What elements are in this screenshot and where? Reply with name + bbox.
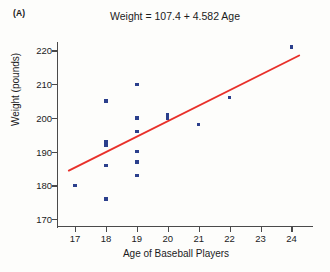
data-point: [104, 99, 107, 102]
x-tick-label: 23: [249, 233, 273, 244]
x-tick: [75, 226, 76, 232]
x-tick: [291, 226, 292, 232]
plot-area: [58, 44, 310, 226]
x-tick-label: 17: [63, 233, 87, 244]
y-tick-label: 210: [18, 79, 52, 90]
y-tick-label: 190: [18, 146, 52, 157]
x-tick: [261, 226, 262, 232]
data-point: [166, 116, 169, 119]
chart-title: Weight = 107.4 + 4.582 Age: [0, 10, 330, 22]
data-point: [228, 96, 231, 99]
data-point: [135, 174, 138, 177]
x-tick-label: 21: [187, 233, 211, 244]
y-tick-label: 180: [18, 180, 52, 191]
data-point: [135, 83, 138, 86]
x-tick: [106, 226, 107, 232]
x-tick-label: 22: [218, 233, 242, 244]
y-axis-title: Weight (pounds): [10, 30, 21, 150]
x-tick-label: 24: [279, 233, 303, 244]
data-point: [135, 130, 138, 133]
y-tick-label: 170: [18, 214, 52, 225]
data-point: [197, 123, 200, 126]
x-tick: [199, 226, 200, 232]
x-tick: [168, 226, 169, 232]
x-tick-label: 19: [125, 233, 149, 244]
y-tick-label: 220: [18, 45, 52, 56]
scatter-plot-figure: (A) Weight = 107.4 + 4.582 Age 170180190…: [0, 0, 330, 272]
data-point: [135, 116, 138, 119]
x-axis-title: Age of Baseball Players: [0, 248, 330, 259]
data-point: [290, 45, 293, 48]
x-tick: [230, 226, 231, 232]
data-point: [135, 150, 138, 153]
data-point: [104, 143, 107, 146]
y-tick-label: 200: [18, 112, 52, 123]
data-point: [104, 164, 107, 167]
x-tick-label: 18: [94, 233, 118, 244]
x-tick-label: 20: [156, 233, 180, 244]
data-point: [104, 197, 107, 200]
data-point: [135, 160, 138, 163]
x-tick: [137, 226, 138, 232]
data-point: [73, 184, 76, 187]
x-axis-line: [57, 226, 313, 227]
